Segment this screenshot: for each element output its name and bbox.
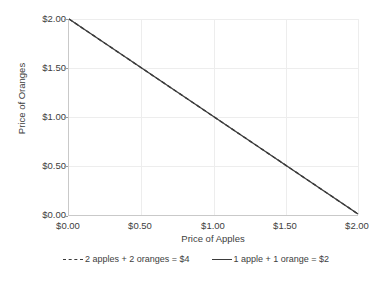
x-tick-label-0.50: $0.50 [128, 220, 152, 231]
x-axis-title-text: Price of Apples [181, 233, 244, 244]
y-tick-label-0.50: $0.50 [42, 161, 66, 171]
y-tick-label-2.00: $2.00 [42, 14, 66, 24]
series-lines [69, 19, 358, 215]
x-tick-label-0.00: $0.00 [56, 220, 80, 231]
legend-swatch-dashed-icon [63, 259, 83, 260]
x-tick-label-1.50: $1.50 [273, 220, 297, 231]
y-tick-mark-0.00 [64, 216, 68, 217]
legend-label-0: 2 apples + 2 oranges = $4 [85, 254, 190, 265]
plot-area [68, 19, 358, 216]
y-tick-label-0.00: $0.00 [42, 210, 66, 220]
y-axis-title: Price of Oranges [16, 29, 27, 169]
legend-swatch-solid-icon [212, 259, 232, 260]
y-tick-label-1.00: $1.00 [42, 112, 66, 122]
x-tick-label-2.00: $2.00 [345, 220, 369, 231]
series-line-1-apple-1-orange [69, 19, 358, 214]
x-tick-label-1.00: $1.00 [201, 220, 225, 231]
legend-item-0[interactable]: 2 apples + 2 oranges = $4 [63, 254, 190, 265]
gridline-x-2.00 [358, 19, 359, 215]
chart-container: Price of Oranges $2.00 $1.50 $1.00 $0.50… [0, 0, 392, 281]
y-tick-label-1.50: $1.50 [42, 63, 66, 73]
x-axis-title: Price of Apples [0, 233, 392, 244]
legend-item-1[interactable]: 1 apple + 1 orange = $2 [212, 254, 330, 265]
chart-legend: 2 apples + 2 oranges = $4 1 apple + 1 or… [0, 254, 392, 265]
legend-label-1: 1 apple + 1 orange = $2 [234, 254, 330, 265]
